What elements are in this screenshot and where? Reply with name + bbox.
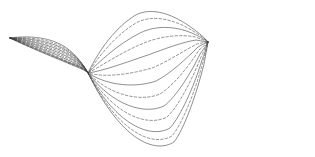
curve-family-figure	[0, 0, 315, 157]
curve-family-plot	[0, 0, 315, 157]
plot-background	[0, 0, 315, 157]
